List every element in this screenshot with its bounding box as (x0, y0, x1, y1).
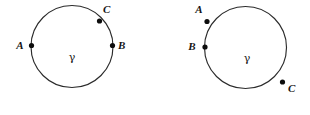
left-circle-diagram: A B C γ (15, 3, 125, 88)
point-marker-c-left (97, 18, 102, 23)
point-label-c-left: C (103, 3, 111, 15)
curve-label-gamma-right: γ (244, 52, 251, 65)
right-circle-diagram: A B C γ (187, 3, 296, 94)
point-marker-a-left (29, 43, 34, 48)
point-marker-b-right (202, 44, 207, 49)
point-label-c-right: C (288, 82, 296, 94)
point-marker-b-left (110, 43, 115, 48)
point-label-b-left: B (117, 39, 125, 51)
point-label-a-left: A (15, 39, 23, 51)
circle-gamma-right (205, 7, 287, 89)
point-marker-a-right (204, 19, 209, 24)
geometry-diagram: A B C γ A B C γ (0, 0, 310, 115)
curve-label-gamma-left: γ (69, 51, 76, 64)
point-label-a-right: A (194, 3, 202, 15)
point-label-b-right: B (187, 40, 195, 52)
circle-gamma-left (31, 6, 113, 88)
point-marker-c-right (280, 79, 285, 84)
figure-canvas: A B C γ A B C γ (0, 0, 310, 115)
